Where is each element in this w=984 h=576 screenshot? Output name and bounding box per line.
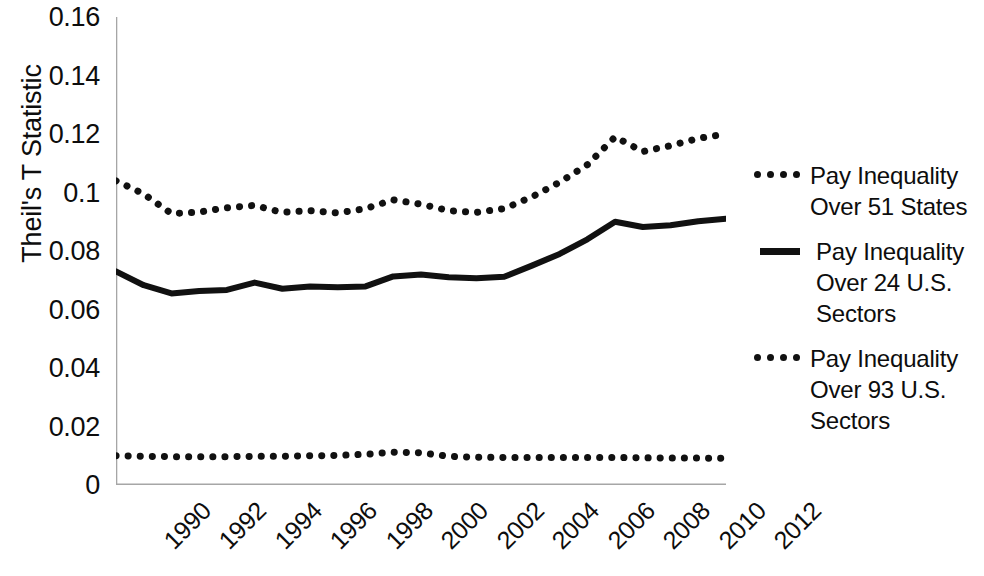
- x-tick-label: 2008: [657, 496, 716, 555]
- x-tick-label: 1990: [158, 496, 217, 555]
- legend-label: Pay Inequality Over 51 States: [810, 160, 984, 222]
- legend-dot: [793, 354, 800, 361]
- x-tick-label: 1996: [324, 496, 383, 555]
- legend-dot: [780, 354, 787, 361]
- legend-dot: [754, 354, 761, 361]
- x-tick-label: 2000: [435, 496, 494, 555]
- x-tick-label: 2004: [546, 496, 605, 555]
- legend-dot: [793, 171, 800, 178]
- line-chart: Theil's T Statistic 00.020.040.060.080.1…: [0, 0, 984, 576]
- legend-label: Pay Inequality Over 93 U.S. Sectors: [810, 343, 984, 436]
- dotted-line-marker: [752, 343, 808, 373]
- legend-label: Pay Inequality Over 24 U.S. Sectors: [816, 236, 984, 329]
- legend-dot: [780, 171, 787, 178]
- x-tick-label: 1998: [380, 496, 439, 555]
- legend-solid-bar: [760, 248, 800, 255]
- legend-entry: Pay Inequality Over 51 States: [752, 160, 984, 222]
- legend: Pay Inequality Over 51 StatesPay Inequal…: [752, 160, 984, 450]
- legend-dot: [767, 171, 774, 178]
- x-tick-label: 1992: [213, 496, 272, 555]
- x-tick-label: 2006: [602, 496, 661, 555]
- legend-entry: Pay Inequality Over 24 U.S. Sectors: [752, 236, 984, 329]
- x-tick-label: 2010: [712, 496, 771, 555]
- legend-dot-row: [754, 171, 800, 178]
- legend-dot-row: [754, 354, 800, 361]
- solid-line-marker: [752, 236, 814, 266]
- legend-dot: [767, 354, 774, 361]
- x-tick-label: 2002: [491, 496, 550, 555]
- dotted-line-marker: [752, 160, 808, 190]
- x-tick-label: 1994: [269, 496, 328, 555]
- legend-entry: Pay Inequality Over 93 U.S. Sectors: [752, 343, 984, 436]
- legend-dot: [754, 171, 761, 178]
- x-tick-label: 2012: [768, 496, 827, 555]
